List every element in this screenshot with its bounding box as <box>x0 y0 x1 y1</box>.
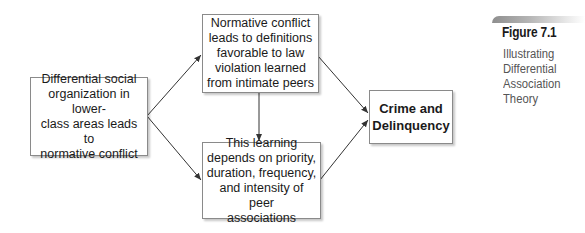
arrow-origin-to-normative <box>147 55 201 116</box>
figure-label: Figure 7.1 <box>502 24 557 40</box>
node-learning-depends: This learning depends on priority, durat… <box>202 142 321 219</box>
node-crime-and-delinquency: Crime and Delinquency <box>369 90 453 144</box>
node-differential-social-organization: Differential social organization in lowe… <box>30 77 148 156</box>
figure-caption: Illustrating Differential Association Th… <box>503 47 561 107</box>
node-outcome-text: Crime and Delinquency <box>372 100 449 134</box>
node-origin-text: Differential social organization in lowe… <box>34 72 144 162</box>
node-normative-conflict: Normative conflict leads to definitions … <box>202 14 319 93</box>
node-normative-text: Normative conflict leads to definitions … <box>207 16 314 91</box>
arrow-normative-to-outcome <box>318 56 368 113</box>
node-learning-text: This learning depends on priority, durat… <box>206 136 317 226</box>
arrow-learning-to-outcome <box>320 120 368 180</box>
arrow-origin-to-learning <box>147 116 201 180</box>
figure-label-tab <box>492 16 585 23</box>
